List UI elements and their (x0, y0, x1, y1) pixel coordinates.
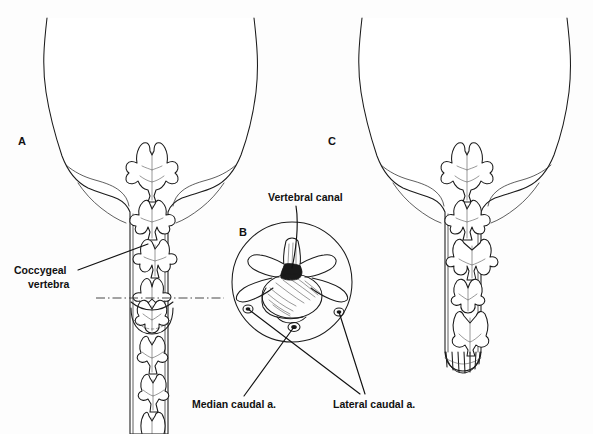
median-caudal-artery-label: Median caudal a. (192, 398, 276, 410)
vertebral-canal-label: Vertebral canal (268, 191, 343, 203)
panel-label-a: A (18, 135, 26, 147)
anatomical-figure: A B C Coccygeal vertebra Vertebral canal… (0, 0, 593, 434)
coccygeal-vertebra-label-line1: Coccygeal (14, 264, 67, 276)
panel-label-b: B (239, 226, 247, 238)
figure-canvas: A B C Coccygeal vertebra Vertebral canal… (0, 0, 593, 434)
panel-b-vertebral-canal (281, 264, 302, 280)
panel-label-c: C (328, 135, 336, 147)
coccygeal-vertebra-label-line2: vertebra (28, 278, 70, 290)
lateral-caudal-artery-label: Lateral caudal a. (333, 398, 415, 410)
